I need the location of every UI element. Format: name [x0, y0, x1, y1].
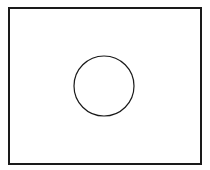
center-circle: [74, 56, 134, 116]
diagram-canvas: [0, 0, 210, 170]
outer-rectangle: [9, 8, 201, 164]
